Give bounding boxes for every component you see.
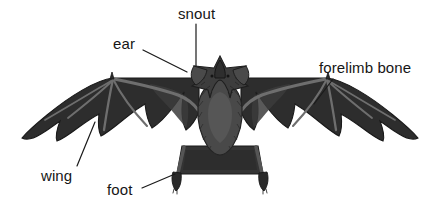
label-forelimb-bone: forelimb bone [319, 60, 411, 75]
label-wing: wing [41, 168, 72, 183]
left-eye [211, 75, 214, 78]
bat-anatomy-figure: snout ear forelimb bone wing foot [0, 0, 440, 204]
right-eye [227, 75, 230, 78]
label-snout: snout [178, 6, 215, 21]
label-ear: ear [113, 36, 135, 51]
label-foot: foot [107, 182, 132, 197]
